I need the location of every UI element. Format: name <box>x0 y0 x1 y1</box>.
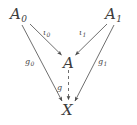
edge-label-g-base: g <box>57 83 62 92</box>
node-X-base: X <box>62 101 73 119</box>
edge-label-g: g <box>57 84 62 92</box>
node-A-base: A <box>63 54 74 72</box>
edge-label-g1-subscript: 1 <box>103 60 107 67</box>
node-X: X <box>62 103 73 118</box>
node-A0: A0 <box>10 7 27 22</box>
edge-label-g0-subscript: 0 <box>30 60 34 67</box>
edge-label-iota0: ι0 <box>43 29 50 37</box>
commutative-diagram: X (dashed, unique induced morphism) --> … <box>0 0 137 125</box>
edge-label-iota1-subscript: 1 <box>82 31 86 38</box>
edge-label-g1: g1 <box>98 58 107 66</box>
node-A0-base: A <box>10 5 21 23</box>
node-A0-subscript: 0 <box>21 14 27 24</box>
node-A1-base: A <box>105 5 116 23</box>
node-A1-subscript: 1 <box>116 14 122 24</box>
edge-label-g0: g0 <box>25 58 34 66</box>
node-A: A <box>63 56 74 71</box>
edge-label-iota1: ι1 <box>79 29 86 37</box>
node-A1: A1 <box>105 7 122 22</box>
edge-label-iota0-subscript: 0 <box>46 31 50 38</box>
